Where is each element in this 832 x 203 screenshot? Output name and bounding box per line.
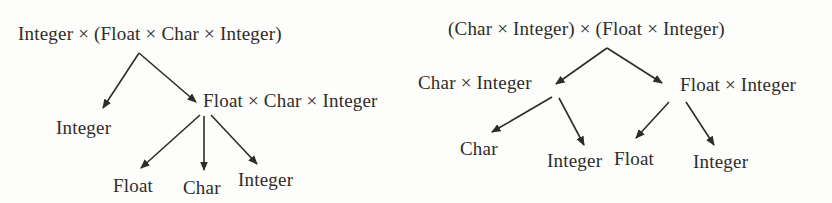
left-tree-edge-root-to-integer: [103, 53, 139, 108]
right-tree-edge-root-to-char-integer: [556, 48, 607, 84]
right-tree-char-integer-node-label: Char × Integer: [418, 73, 532, 94]
left-tree-edge-product-to-float: [141, 115, 200, 168]
right-tree-leaf-char-label: Char: [460, 139, 498, 160]
left-tree-product-node-label: Float × Char × Integer: [203, 91, 378, 112]
right-tree-leaf-integer1-label: Integer: [547, 151, 602, 172]
right-tree-edge-fi-to-integer: [686, 102, 714, 145]
left-tree-leaf-float-label: Float: [113, 176, 153, 197]
left-tree-leaf-char-label: Char: [183, 178, 221, 199]
left-tree-leaf-integer-label: Integer: [56, 118, 111, 139]
left-tree-edge-root-to-product: [139, 53, 196, 102]
left-tree-leaf-integer2-label: Integer: [238, 170, 293, 191]
right-tree-edge-root-to-float-integer: [607, 48, 662, 83]
right-tree-root-label: (Char × Integer) × (Float × Integer): [448, 19, 725, 40]
right-tree-edge-ci-to-integer: [559, 98, 584, 145]
type-product-parse-trees-figure: Integer × (Float × Char × Integer) Integ…: [0, 0, 832, 203]
left-tree-edge-product-to-integer: [211, 115, 257, 164]
right-tree-leaf-integer2-label: Integer: [693, 152, 748, 173]
right-tree-edge-ci-to-char: [492, 97, 552, 132]
right-tree-edge-fi-to-float: [636, 102, 669, 138]
left-tree-root-label: Integer × (Float × Char × Integer): [18, 24, 282, 45]
right-tree-leaf-float-label: Float: [614, 149, 654, 170]
right-tree-float-integer-node-label: Float × Integer: [680, 75, 796, 96]
